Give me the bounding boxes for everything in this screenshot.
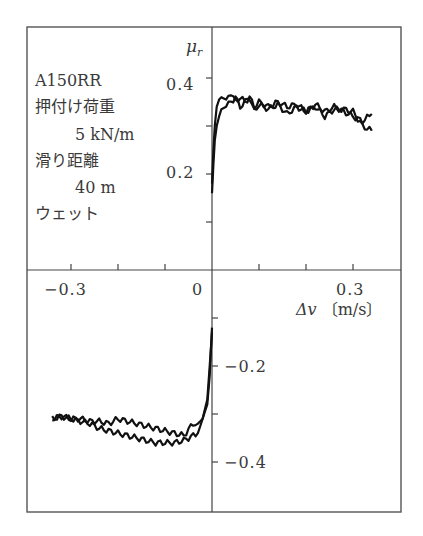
annotation-load-label: 押付け荷重 <box>35 99 115 115</box>
y-axis-symbol: μ <box>186 36 197 56</box>
y-axis-label: μr <box>186 38 202 58</box>
data-curve <box>52 328 212 437</box>
data-curve <box>212 95 372 183</box>
annotation-model: A150RR <box>35 73 101 89</box>
y-tick-label-neg-0.2: −0.2 <box>224 359 267 375</box>
x-tick-label-0.3: 0.3 <box>336 282 364 298</box>
x-axis-label: Δv 〔m/s〕 <box>296 302 382 318</box>
x-axis-symbol: Δv <box>296 300 317 319</box>
y-tick-label-0.2: 0.2 <box>166 165 194 181</box>
x-tick-label-neg-0.3: −0.3 <box>44 282 87 298</box>
annotation-distance-value: 40 m <box>75 180 116 196</box>
annotation-distance-label: 滑り距離 <box>35 153 99 169</box>
annotation-load-value: 5 kN/m <box>75 127 135 143</box>
x-axis-unit: 〔m/s〕 <box>322 300 383 319</box>
data-curve <box>212 97 372 194</box>
annotation-condition: ウェット <box>35 206 99 222</box>
x-tick-label-0: 0 <box>192 282 203 298</box>
y-tick-label-0.4: 0.4 <box>166 77 194 93</box>
y-axis-subscript: r <box>197 46 202 59</box>
y-tick-label-neg-0.4: −0.4 <box>224 455 267 471</box>
